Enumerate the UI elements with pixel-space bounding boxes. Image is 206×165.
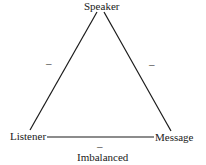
sign-left-edge: – bbox=[46, 58, 52, 69]
node-speaker: Speaker bbox=[84, 1, 119, 12]
node-listener: Listener bbox=[10, 131, 46, 142]
balance-caption: Imbalanced bbox=[77, 152, 128, 163]
node-message: Message bbox=[155, 132, 194, 143]
sign-right-edge: – bbox=[149, 59, 155, 70]
edge-speaker-message bbox=[104, 12, 171, 131]
edge-speaker-listener bbox=[30, 12, 97, 130]
